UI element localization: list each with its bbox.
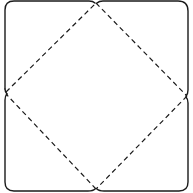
fold-line-bottom-left xyxy=(6,94,96,189)
cut-line-top-right xyxy=(97,1,188,96)
envelope-template-svg xyxy=(0,0,193,193)
cut-line-bottom-right xyxy=(97,97,188,191)
fold-line-top-left xyxy=(6,3,96,92)
envelope-template-diagram xyxy=(0,0,193,193)
cut-line-top-left xyxy=(5,1,95,89)
fold-line-bottom-right xyxy=(96,96,187,189)
cut-line-bottom-left xyxy=(5,94,95,191)
fold-line-top-right xyxy=(96,3,187,96)
